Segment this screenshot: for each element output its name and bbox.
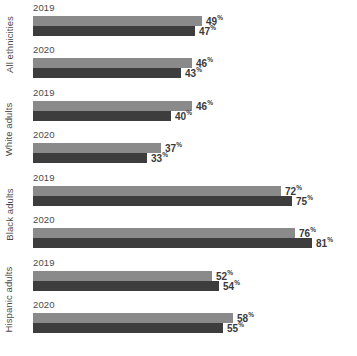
bar-group: 201949%47%202046%43% (33, 2, 357, 87)
bar (33, 101, 192, 111)
bar-group: 201972%75%202076%81% (33, 172, 357, 257)
bar-value-label: 43% (185, 67, 202, 78)
percent-sign: % (310, 226, 316, 233)
bar-value-number: 55 (227, 323, 238, 334)
percent-sign: % (217, 14, 223, 21)
category-axis-label-text: Hispanic adults (4, 267, 15, 333)
percent-sign: % (307, 194, 313, 201)
year-block: 202058%55% (33, 299, 357, 333)
bar (33, 313, 233, 323)
bar (33, 271, 212, 281)
bar (33, 58, 192, 68)
bar-value-label: 54% (223, 280, 240, 291)
year-label: 2019 (33, 257, 55, 268)
bar-value-label: 75% (296, 195, 313, 206)
percent-sign: % (186, 109, 192, 116)
percent-sign: % (196, 66, 202, 73)
year-label: 2019 (33, 87, 55, 98)
year-label: 2019 (33, 2, 55, 13)
bar (33, 153, 147, 163)
category-axis-label: Hispanic adults (0, 257, 18, 342)
bar-row: 46% (33, 101, 357, 111)
year-label: 2020 (33, 44, 55, 55)
bar (33, 228, 295, 238)
bar-row: 54% (33, 281, 357, 291)
bar-value-number: 46 (196, 101, 207, 112)
year-block: 201946%40% (33, 87, 357, 121)
bar-group: 201946%40%202037%33% (33, 87, 357, 172)
bar-row: 75% (33, 196, 357, 206)
percent-sign: % (238, 321, 244, 328)
bar-value-number: 75 (296, 196, 307, 207)
bar-value-number: 81 (316, 238, 327, 249)
bar-value-label: 76% (299, 227, 316, 238)
bar-row: 47% (33, 26, 357, 36)
bar-value-number: 33 (151, 153, 162, 164)
percent-sign: % (207, 56, 213, 63)
percent-sign: % (176, 141, 182, 148)
bar-row: 43% (33, 68, 357, 78)
plot-area: 201949%47%202046%43%201946%40%202037%33%… (33, 0, 357, 356)
grouped-bar-chart: All ethnicitiesWhite adultsBlack adultsH… (0, 0, 357, 356)
percent-sign: % (296, 184, 302, 191)
bar-value-label: 33% (151, 152, 168, 163)
bar (33, 26, 195, 36)
bar-row: 76% (33, 228, 357, 238)
bar (33, 238, 312, 248)
bar-row: 33% (33, 153, 357, 163)
category-axis-label-text: White adults (4, 103, 15, 156)
bar-row: 52% (33, 271, 357, 281)
year-block: 201972%75% (33, 172, 357, 206)
bar (33, 111, 171, 121)
year-label: 2020 (33, 214, 55, 225)
bar-value-number: 47 (199, 26, 210, 37)
year-block: 201949%47% (33, 2, 357, 36)
bar-value-label: 46% (196, 100, 213, 111)
bar-group: 201952%54%202058%55% (33, 257, 357, 342)
bar (33, 281, 219, 291)
bar-row: 40% (33, 111, 357, 121)
bar-row: 55% (33, 323, 357, 333)
bar (33, 68, 181, 78)
bar (33, 196, 292, 206)
year-block: 201952%54% (33, 257, 357, 291)
category-axis-label: White adults (0, 87, 18, 172)
bar-row: 37% (33, 143, 357, 153)
bar-value-number: 54 (223, 281, 234, 292)
bar-row: 49% (33, 16, 357, 26)
category-axis-label: Black adults (0, 172, 18, 257)
category-axis-label: All ethnicities (0, 2, 18, 87)
category-axis-label-text: All ethnicities (4, 16, 15, 73)
percent-sign: % (234, 279, 240, 286)
percent-sign: % (162, 151, 168, 158)
bar-row: 58% (33, 313, 357, 323)
bar (33, 143, 161, 153)
percent-sign: % (248, 311, 254, 318)
year-label: 2020 (33, 129, 55, 140)
percent-sign: % (327, 236, 333, 243)
year-label: 2020 (33, 299, 55, 310)
bar-row: 81% (33, 238, 357, 248)
bar (33, 186, 281, 196)
bar-value-number: 72 (285, 186, 296, 197)
bar-value-label: 55% (227, 322, 244, 333)
bar-value-number: 76 (299, 228, 310, 239)
year-block: 202076%81% (33, 214, 357, 248)
bar (33, 16, 202, 26)
bar (33, 323, 223, 333)
category-axis-label-text: Black adults (4, 188, 15, 240)
bar-value-label: 81% (316, 237, 333, 248)
year-block: 202037%33% (33, 129, 357, 163)
bar-value-number: 43 (185, 68, 196, 79)
percent-sign: % (227, 269, 233, 276)
bar-value-label: 47% (199, 25, 216, 36)
percent-sign: % (210, 24, 216, 31)
bar-value-label: 40% (175, 110, 192, 121)
year-label: 2019 (33, 172, 55, 183)
percent-sign: % (207, 99, 213, 106)
year-block: 202046%43% (33, 44, 357, 78)
bar-value-number: 40 (175, 111, 186, 122)
